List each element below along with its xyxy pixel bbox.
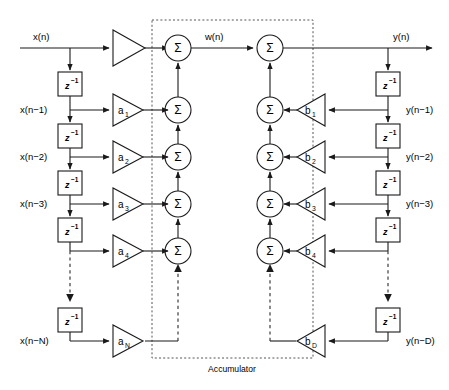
gain-b3-sub: 3	[312, 205, 316, 212]
delay-exponent: −1	[71, 77, 79, 84]
tap-row-2: x(n−2) a 2	[20, 141, 168, 173]
gain-b1-sub: 1	[312, 111, 316, 118]
delay-x-3: z −1	[58, 171, 82, 195]
delay-x-2: z −1	[58, 124, 82, 148]
delay-x-4: z −1	[58, 218, 82, 242]
sum-symbol: Σ	[174, 244, 181, 258]
gain-a0	[113, 30, 168, 66]
sum-symbol: Σ	[266, 197, 273, 211]
gain-a4-sub: 4	[125, 252, 129, 259]
sum-symbol: Σ	[266, 41, 273, 55]
sum-symbol: Σ	[174, 103, 181, 117]
gain-b2-base: b	[305, 152, 311, 163]
sum-symbol: Σ	[174, 197, 181, 211]
delay-y-D: z −1	[376, 308, 400, 332]
gain-a2-sub: 2	[125, 158, 129, 165]
delay-exponent: −1	[389, 129, 397, 136]
delay-y-3: z −1	[376, 171, 400, 195]
sum-symbol: Σ	[266, 150, 273, 164]
gain-b4-sub: 4	[312, 252, 316, 259]
delay-exponent: −1	[71, 313, 79, 320]
delay-exponent: −1	[389, 77, 397, 84]
tap-label-x1: x(n−1)	[20, 104, 47, 115]
delay-base: z	[64, 133, 70, 143]
delay-base: z	[382, 133, 388, 143]
gain-b3-base: b	[305, 199, 311, 210]
fb-tap-label-y2: y(n−2)	[406, 151, 433, 162]
tap-row-3: x(n−3) a 3	[20, 188, 168, 220]
delay-x-N: z −1	[58, 308, 82, 332]
signal-flow-diagram: x(n) Σ Σ Σ Σ Σ	[0, 0, 449, 390]
delay-base: z	[382, 227, 388, 237]
delay-base: z	[382, 180, 388, 190]
feedback-sum-chain: Σ Σ Σ Σ Σ	[257, 35, 296, 341]
delay-exponent: −1	[389, 223, 397, 230]
gain-b4-base: b	[305, 246, 311, 257]
output-label-yn: y(n)	[393, 31, 409, 42]
delay-base: z	[64, 227, 70, 237]
tap-label-x2: x(n−2)	[20, 151, 47, 162]
gain-b1-base: b	[305, 105, 311, 116]
delay-exponent: −1	[71, 176, 79, 183]
intermediate-label-wn: w(n)	[204, 31, 223, 42]
fb-tap-row-1: y(n−1) b 1	[284, 94, 433, 126]
gain-aN-sub: N	[125, 342, 130, 349]
fb-tap-row-2: y(n−2) b 2	[284, 141, 433, 173]
delay-exponent: −1	[389, 176, 397, 183]
output-branch: y(n)	[283, 31, 432, 70]
sum-symbol: Σ	[266, 244, 273, 258]
gain-a1-base: a	[118, 105, 124, 116]
delay-base: z	[382, 317, 388, 327]
gain-b2-sub: 2	[312, 158, 316, 165]
fb-tap-label-y3: y(n−3)	[406, 198, 433, 209]
fb-tap-row-3: y(n−3) b 3	[284, 188, 433, 220]
accumulator-label: Accumulator	[208, 364, 256, 374]
accumulator-boundary	[152, 20, 313, 358]
tap-row-4: a 4	[66, 235, 168, 302]
fb-tap-label-y1: y(n−1)	[406, 104, 433, 115]
input-branch: x(n)	[20, 31, 109, 70]
delay-exponent: −1	[71, 223, 79, 230]
delay-y-1: z −1	[376, 72, 400, 96]
input-label-xn: x(n)	[33, 31, 49, 42]
delay-exponent: −1	[71, 129, 79, 136]
gain-bD-sub: D	[312, 342, 317, 349]
tap-label-x3: x(n−3)	[20, 198, 47, 209]
fb-tap-row-4: b 4	[284, 235, 392, 302]
tap-row-1: x(n−1) a 1	[20, 94, 168, 126]
fb-tap-row-D: y(n−D) b D	[297, 325, 435, 357]
delay-y-2: z −1	[376, 124, 400, 148]
gain-a1-sub: 1	[125, 111, 129, 118]
sum-symbol: Σ	[174, 41, 181, 55]
sum-symbol: Σ	[174, 150, 181, 164]
delay-base: z	[64, 81, 70, 91]
gain-a3-base: a	[118, 199, 124, 210]
delay-exponent: −1	[389, 313, 397, 320]
delay-base: z	[64, 180, 70, 190]
delay-base: z	[382, 81, 388, 91]
diagram-canvas: x(n) Σ Σ Σ Σ Σ	[0, 0, 449, 390]
gain-a2-base: a	[118, 152, 124, 163]
tap-label-xN: x(n−N)	[20, 335, 49, 346]
intermediate-signal-branch: w(n)	[191, 31, 253, 48]
fb-tap-label-yD: y(n−D)	[406, 335, 435, 346]
gain-aN-base: a	[118, 336, 124, 347]
sum-symbol: Σ	[266, 103, 273, 117]
gain-a3-sub: 3	[125, 205, 129, 212]
delay-x-1: z −1	[58, 72, 82, 96]
delay-y-4: z −1	[376, 218, 400, 242]
gain-bD-base: b	[305, 336, 311, 347]
gain-a4-base: a	[118, 246, 124, 257]
delay-base: z	[64, 317, 70, 327]
